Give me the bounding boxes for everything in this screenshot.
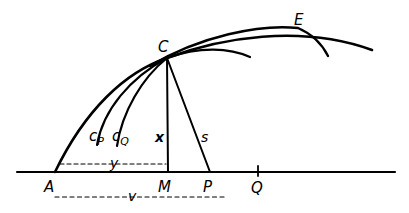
segment-cm [167,58,168,172]
label-q: Q [251,179,263,197]
curve-c-through-e [150,27,328,66]
label-a: A [43,178,54,196]
label-e: E [294,11,304,29]
segment-cp [167,58,210,172]
label-y: y [109,155,119,171]
label-cq-sub: Q [120,135,129,148]
label-cp-sub: P [97,135,104,148]
geometry-diagram: C E A M P Q cP cQ x s y v [0,0,409,213]
curve-a-through-c [55,36,372,172]
label-v: v [128,188,137,204]
label-p: P [203,178,213,196]
label-c: C [158,38,169,56]
label-s: s [201,129,208,145]
label-m: M [158,178,171,196]
label-x: x [154,129,165,145]
